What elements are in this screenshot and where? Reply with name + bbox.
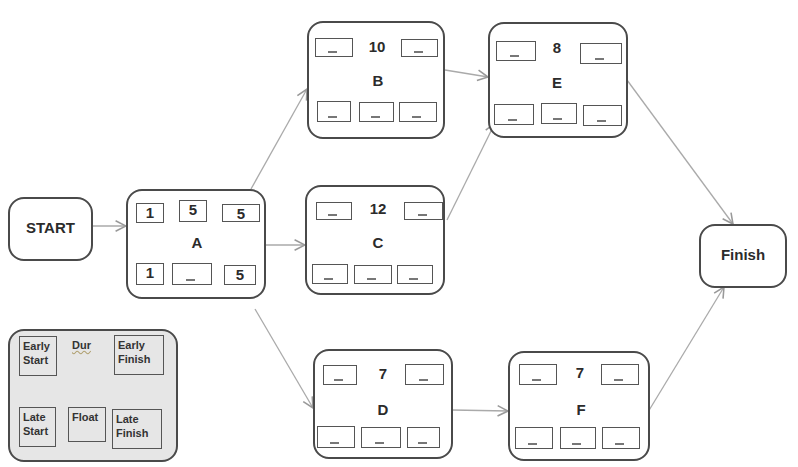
legend-late-finish: Late Finish xyxy=(112,409,162,449)
node-a-ef: 5 xyxy=(222,204,260,222)
node-d-duration: 7 xyxy=(368,365,398,382)
node-c-name: C xyxy=(363,234,393,251)
node-b-name: B xyxy=(363,72,393,89)
legend-early-start: Early Start xyxy=(19,336,57,376)
node-b-float xyxy=(359,102,394,122)
node-b-lf xyxy=(399,102,437,122)
edge-a-b xyxy=(251,89,307,189)
node-c-ls xyxy=(312,264,348,284)
edge-f-finish xyxy=(648,287,724,412)
node-c: 12 C xyxy=(305,185,445,295)
node-f-es xyxy=(519,364,557,385)
node-e-lf xyxy=(583,105,622,126)
legend-duration: Dur xyxy=(72,339,91,351)
node-b-ef xyxy=(401,39,438,57)
node-a-ls: 1 xyxy=(136,263,164,285)
node-f: 7 F xyxy=(508,351,650,461)
node-e-es xyxy=(496,41,536,61)
node-e-float xyxy=(541,103,577,124)
node-d-name: D xyxy=(368,401,398,418)
node-f-ef xyxy=(601,364,639,385)
node-a-name: A xyxy=(182,234,212,251)
node-d-float xyxy=(361,427,401,448)
node-f-duration: 7 xyxy=(565,364,595,381)
node-a: 1 5 5 A 1 5 xyxy=(126,189,266,299)
node-e-ls xyxy=(494,104,534,125)
legend-float: Float xyxy=(68,407,106,442)
node-d-lf xyxy=(407,427,440,448)
edge-e-finish xyxy=(627,80,733,224)
node-f-name: F xyxy=(566,401,596,418)
legend-node: Early Start Dur Early Finish Late Start … xyxy=(8,329,178,462)
node-e-ef xyxy=(580,43,622,64)
finish-label: Finish xyxy=(721,246,765,286)
node-f-float xyxy=(560,427,596,449)
node-b-es xyxy=(315,38,353,57)
node-c-es xyxy=(316,202,352,220)
node-e-name: E xyxy=(542,74,572,91)
node-b-ls xyxy=(317,101,351,122)
node-a-es: 1 xyxy=(136,203,164,223)
finish-node: Finish xyxy=(699,224,787,288)
edge-a-d xyxy=(255,309,313,408)
edge-b-e xyxy=(445,70,488,77)
legend-early-finish: Early Finish xyxy=(114,335,164,375)
legend-late-start: Late Start xyxy=(19,407,56,447)
node-d-ls xyxy=(317,426,355,448)
node-c-duration: 12 xyxy=(363,200,393,217)
edge-c-e xyxy=(447,123,495,220)
node-d-ef xyxy=(405,364,444,385)
node-b-duration: 10 xyxy=(362,38,392,55)
node-a-lf: 5 xyxy=(224,265,256,285)
start-label: START xyxy=(26,219,75,259)
node-d: 7 D xyxy=(313,349,453,459)
node-a-float xyxy=(172,263,212,285)
start-node: START xyxy=(8,197,93,261)
node-d-es xyxy=(323,365,357,385)
node-c-ef xyxy=(404,202,443,220)
node-e: 8 E xyxy=(488,22,628,138)
node-f-lf xyxy=(602,427,640,449)
node-c-float xyxy=(354,265,392,284)
node-b: 10 B xyxy=(307,21,445,139)
node-e-duration: 8 xyxy=(542,39,572,56)
node-f-ls xyxy=(515,427,553,449)
node-c-lf xyxy=(397,265,433,284)
node-a-duration: 5 xyxy=(179,200,207,222)
edge-d-f xyxy=(452,410,508,411)
